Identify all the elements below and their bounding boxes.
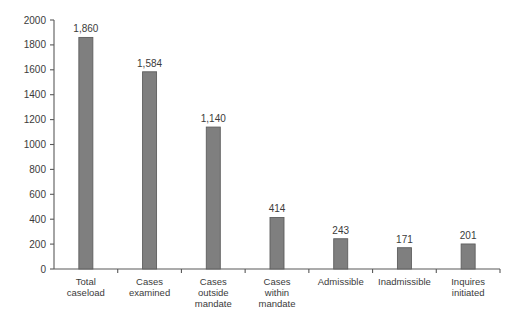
y-tick-label: 2000 xyxy=(24,15,47,26)
y-tick-label: 1000 xyxy=(24,139,47,150)
x-axis xyxy=(54,269,500,273)
y-axis-ticks: 0200400600800100012001400160018002000 xyxy=(24,15,54,275)
bar-value-label: 243 xyxy=(332,225,349,236)
y-tick-label: 200 xyxy=(29,239,46,250)
bar xyxy=(270,217,284,269)
bar xyxy=(206,127,220,269)
category-label: Casesoutsidemandate xyxy=(195,276,232,309)
bar xyxy=(461,244,475,269)
category-labels: TotalcaseloadCasesexaminedCasesoutsidema… xyxy=(67,276,485,309)
bar xyxy=(397,248,411,269)
category-label: Caseswithinmandate xyxy=(259,276,296,309)
bar-value-labels: 1,8601,5841,140414243171201 xyxy=(73,23,477,244)
category-label: Inquiresinitiated xyxy=(451,276,485,298)
bar-chart: 0200400600800100012001400160018002000 1,… xyxy=(0,0,518,318)
bar xyxy=(79,37,93,269)
y-tick-label: 400 xyxy=(29,214,46,225)
bar-series xyxy=(79,37,475,269)
bar-value-label: 201 xyxy=(460,230,477,241)
chart-canvas: 0200400600800100012001400160018002000 1,… xyxy=(0,0,518,318)
bar xyxy=(334,239,348,269)
category-label: Inadmissible xyxy=(378,276,431,287)
category-label: Admissible xyxy=(318,276,364,287)
bar xyxy=(143,72,157,269)
bar-value-label: 1,140 xyxy=(201,113,226,124)
bar-value-label: 1,584 xyxy=(137,58,162,69)
category-label: Totalcaseload xyxy=(67,276,105,298)
y-tick-label: 1600 xyxy=(24,64,47,75)
y-tick-label: 0 xyxy=(40,264,46,275)
bar-value-label: 414 xyxy=(269,203,286,214)
y-tick-label: 800 xyxy=(29,164,46,175)
bar-value-label: 1,860 xyxy=(73,23,98,34)
bar-value-label: 171 xyxy=(396,234,413,245)
y-tick-label: 1200 xyxy=(24,114,47,125)
y-axis: 0200400600800100012001400160018002000 xyxy=(24,15,54,275)
y-tick-label: 600 xyxy=(29,189,46,200)
y-tick-label: 1400 xyxy=(24,89,47,100)
x-axis-ticks xyxy=(118,269,500,273)
y-tick-label: 1800 xyxy=(24,39,47,50)
category-label: Casesexamined xyxy=(129,276,170,298)
